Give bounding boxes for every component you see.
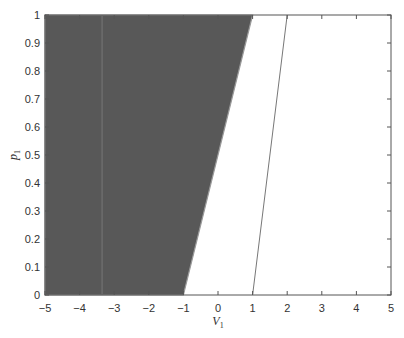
x-tick-label: 2	[284, 302, 290, 314]
x-tick-label: 3	[319, 302, 325, 314]
y-tick-label: 0.2	[25, 233, 40, 245]
x-tick-label: −4	[73, 302, 86, 314]
y-tick-label: 0	[34, 289, 40, 301]
x-tick-label: −1	[177, 302, 190, 314]
y-tick-label: 0.5	[25, 149, 40, 161]
y-tick-label: 0.9	[25, 37, 40, 49]
x-tick-label: 4	[353, 302, 359, 314]
y-axis-label: p1	[6, 150, 22, 161]
y-tick-label: 0.4	[25, 177, 40, 189]
x-tick-label: 0	[215, 302, 221, 314]
y-tick-label: 0.7	[25, 93, 40, 105]
x-axis-label: V1	[212, 314, 223, 330]
chart: −5−4−3−2−1012345 00.10.20.30.40.50.60.70…	[0, 0, 404, 338]
shaded-region	[45, 15, 253, 295]
y-tick-label: 0.8	[25, 65, 40, 77]
y-tick-label: 0.3	[25, 205, 40, 217]
x-tick-label: 1	[250, 302, 256, 314]
y-tick-label: 0.6	[25, 121, 40, 133]
plot-series	[45, 15, 287, 295]
x-tick-label: 5	[388, 302, 394, 314]
x-tick-label: −2	[143, 302, 156, 314]
y-tick-label: 0.1	[25, 261, 40, 273]
x-tick-label: −5	[39, 302, 52, 314]
x-tick-label: −3	[108, 302, 121, 314]
boundary-line	[253, 15, 288, 295]
y-tick-label: 1	[34, 9, 40, 21]
